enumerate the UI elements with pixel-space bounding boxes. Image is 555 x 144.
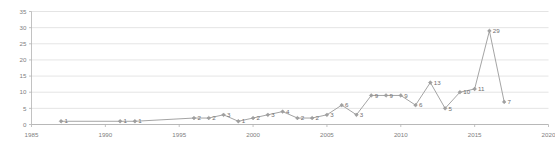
x-axis-tick-label: 1995 xyxy=(172,131,186,138)
y-axis-tick-label: 0 xyxy=(23,121,27,128)
data-point-label: 13 xyxy=(434,79,441,86)
y-axis-tick-label: 25 xyxy=(20,40,27,47)
chart-plot-area: 0510152025303519851990199520002005201020… xyxy=(0,0,555,144)
x-axis-tick-label: 2000 xyxy=(246,131,260,138)
data-point-label: 1 xyxy=(64,117,68,124)
data-point-label: 1 xyxy=(124,117,128,124)
data-point-label: 29 xyxy=(493,27,500,34)
data-point-marker xyxy=(207,116,211,120)
x-axis-tick-label: 2015 xyxy=(468,131,482,138)
data-point-marker xyxy=(502,100,506,104)
y-axis-tick-label: 30 xyxy=(20,24,27,31)
x-axis-tick-label: 2010 xyxy=(394,131,408,138)
data-point-label: 1 xyxy=(242,117,246,124)
data-point-marker xyxy=(118,119,122,123)
data-point-label: 3 xyxy=(360,111,364,118)
data-point-marker xyxy=(251,116,255,120)
data-point-marker xyxy=(384,94,388,98)
data-point-label: 10 xyxy=(463,88,470,95)
data-point-label: 3 xyxy=(271,111,275,118)
data-point-label: 11 xyxy=(478,85,485,92)
data-point-label: 6 xyxy=(345,101,349,108)
data-point-label: 1 xyxy=(138,117,142,124)
y-axis-tick-label: 10 xyxy=(20,88,27,95)
data-point-marker xyxy=(488,29,492,33)
data-point-marker xyxy=(133,119,137,123)
data-point-label: 5 xyxy=(449,105,453,112)
data-point-marker xyxy=(222,113,226,117)
data-point-label: 2 xyxy=(256,114,260,121)
x-axis-tick-label: 2005 xyxy=(320,131,334,138)
data-point-label: 9 xyxy=(404,92,408,99)
data-point-label: 2 xyxy=(197,114,201,121)
data-point-marker xyxy=(59,119,63,123)
y-axis-tick-label: 15 xyxy=(20,72,27,79)
data-point-label: 3 xyxy=(330,111,334,118)
data-point-marker xyxy=(473,87,477,91)
data-point-marker xyxy=(295,116,299,120)
data-point-label: 9 xyxy=(389,92,393,99)
data-point-marker xyxy=(236,119,240,123)
y-axis-tick-label: 20 xyxy=(20,56,27,63)
data-point-marker xyxy=(266,113,270,117)
data-point-label: 2 xyxy=(316,114,320,121)
data-point-label: 4 xyxy=(286,108,290,115)
data-point-label: 6 xyxy=(419,101,423,108)
data-point-label: 7 xyxy=(508,98,512,105)
data-point-label: 9 xyxy=(375,92,379,99)
data-point-label: 2 xyxy=(301,114,305,121)
x-axis-tick-label: 2020 xyxy=(542,131,555,138)
x-axis-tick-label: 1990 xyxy=(98,131,112,138)
data-point-label: 3 xyxy=(227,111,231,118)
y-axis-tick-label: 35 xyxy=(20,8,27,15)
data-point-marker xyxy=(281,110,285,114)
data-point-marker xyxy=(310,116,314,120)
x-axis-tick-label: 1985 xyxy=(25,131,39,138)
data-point-marker xyxy=(192,116,196,120)
y-axis-tick-label: 5 xyxy=(23,105,27,112)
line-chart: 0510152025303519851990199520002005201020… xyxy=(0,0,555,144)
data-point-label: 2 xyxy=(212,114,216,121)
